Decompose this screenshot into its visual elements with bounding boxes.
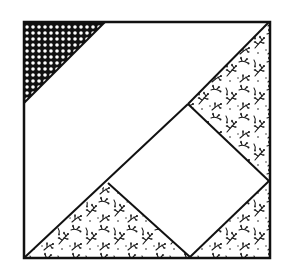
quilt-block-diagram bbox=[0, 0, 281, 275]
